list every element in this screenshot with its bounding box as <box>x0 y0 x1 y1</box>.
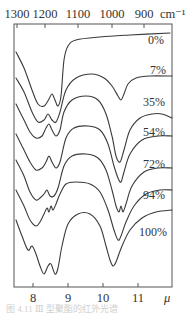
top-tick-label: 1100 <box>66 7 91 21</box>
top-tick-label: 1200 <box>33 7 58 21</box>
series-label: 54% <box>143 125 165 139</box>
series-label: 0% <box>148 33 164 47</box>
series-label: 35% <box>143 95 165 109</box>
top-tick-label: 900 <box>135 7 154 21</box>
spectrum-curve-100pct <box>16 210 172 274</box>
top-axis-unit: cm⁻¹ <box>160 7 186 21</box>
series-label: 94% <box>143 188 165 202</box>
series-label: 7% <box>150 63 166 77</box>
top-tick-label: 1300 <box>5 7 30 21</box>
top-tick-label: 1000 <box>100 7 125 21</box>
series-label: 100% <box>139 225 167 239</box>
top-axis-wavenumber: 1300120011001000900cm⁻¹ <box>5 7 186 28</box>
series-labels: 0%7%35%54%72%94%100% <box>139 33 167 239</box>
series-label: 72% <box>143 157 165 171</box>
figure-caption: 图 4.11 Ⅲ 型聚酯的红外光谱 <box>6 302 184 315</box>
